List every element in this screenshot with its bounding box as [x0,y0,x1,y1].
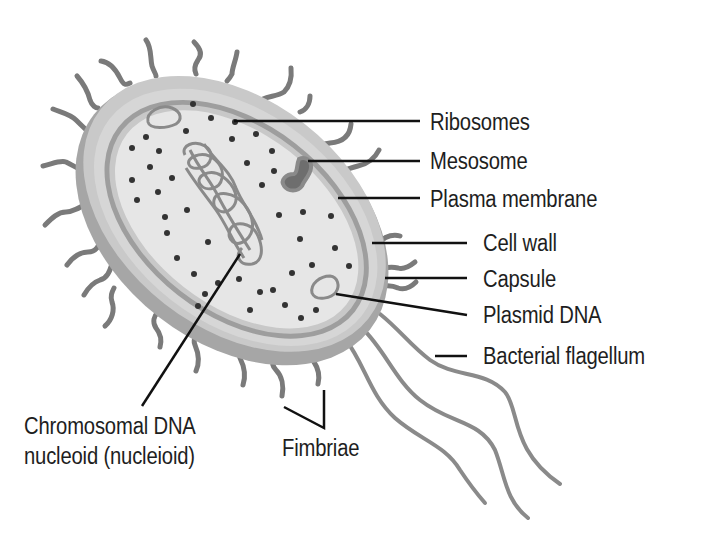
label-fimbriae: Fimbriae [282,435,359,461]
label-mesosome: Mesosome [430,148,528,174]
bacterial-cell-diagram: Ribosomes Mesosome Plasma membrane Cell … [0,0,725,541]
label-plasmid-dna: Plasmid DNA [483,302,601,328]
label-ribosomes: Ribosomes [430,109,530,135]
label-chromosomal-dna-line1: Chromosomal DNA [24,413,196,439]
label-plasma-membrane: Plasma membrane [430,186,597,212]
leader-fimbriae [284,390,324,428]
label-capsule: Capsule [483,266,556,292]
label-bacterial-flagellum: Bacterial flagellum [483,343,645,369]
label-cell-wall: Cell wall [483,230,557,256]
label-chromosomal-dna-line2: nucleoid (nucleioid) [24,443,195,469]
